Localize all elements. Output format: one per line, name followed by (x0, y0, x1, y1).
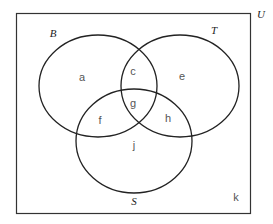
venn-diagram (0, 0, 273, 224)
set-t-circle (121, 35, 239, 137)
region-j: j (133, 140, 135, 151)
region-g: g (130, 98, 136, 109)
set-s-label: S (131, 196, 137, 207)
region-h: h (165, 113, 171, 124)
universe-label: U (257, 9, 265, 20)
set-t-label: T (211, 25, 217, 36)
region-a: a (79, 72, 85, 83)
universe-rectangle (17, 14, 251, 214)
set-b-label: B (50, 28, 57, 39)
region-c: c (130, 66, 136, 77)
region-f: f (98, 115, 101, 126)
region-e: e (179, 71, 185, 82)
region-k: k (233, 192, 239, 203)
